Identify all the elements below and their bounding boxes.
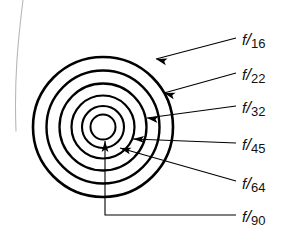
label-f45: f/45 <box>242 136 266 153</box>
label-f22: f/22 <box>242 66 266 83</box>
label-f32-number: 32 <box>251 104 266 119</box>
label-f32: f/32 <box>242 99 266 116</box>
label-f16-number: 16 <box>251 36 266 51</box>
label-f45-number: 45 <box>251 141 266 156</box>
label-f22-number: 22 <box>251 71 266 86</box>
label-f90: f/90 <box>242 208 266 225</box>
label-f64: f/64 <box>242 175 266 192</box>
label-f64-number: 64 <box>251 180 266 195</box>
label-f16: f/16 <box>242 31 266 48</box>
label-f90-number: 90 <box>251 213 266 228</box>
